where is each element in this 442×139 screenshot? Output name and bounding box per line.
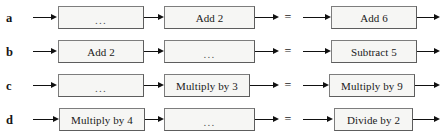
- arrow-out-a: [255, 16, 279, 19]
- row-label-b: b: [6, 35, 26, 69]
- arrow-out-d: [255, 118, 279, 121]
- row-b-result-box: Subtract 5: [331, 40, 417, 63]
- arrow-head: [51, 48, 57, 54]
- arrow-head: [273, 116, 279, 122]
- arrow-result-out-d: [413, 118, 440, 121]
- function-machine-diagram: a ... Add 2 = Add 6 b: [0, 0, 442, 139]
- arrow-result-in-c: [303, 84, 329, 87]
- arrow-shaft: [33, 51, 52, 52]
- arrow-in-c: [33, 84, 57, 87]
- arrow-out-b: [255, 50, 279, 53]
- arrow-head: [51, 14, 57, 20]
- arrow-shaft: [415, 85, 435, 86]
- diagram-row-d: d Multiply by 4 ... = Divide by 2: [0, 103, 442, 137]
- arrow-in-a: [33, 16, 57, 19]
- arrow-shaft: [144, 85, 159, 86]
- arrow-shaft: [303, 17, 326, 18]
- arrow-head: [273, 82, 279, 88]
- row-c-result-box: Multiply by 9: [329, 74, 415, 97]
- row-label-c: c: [6, 69, 26, 103]
- arrow-head: [273, 14, 279, 20]
- arrow-head: [434, 14, 440, 20]
- arrow-mid-b: [144, 50, 164, 53]
- arrow-result-out-b: [417, 50, 440, 53]
- arrow-result-in-a: [303, 16, 331, 19]
- row-d-middle-box: ...: [164, 108, 255, 131]
- row-b-middle-box: ...: [164, 40, 255, 63]
- arrow-head: [434, 82, 440, 88]
- row-c-left-box: ...: [58, 74, 144, 97]
- arrow-head: [273, 48, 279, 54]
- arrow-result-in-b: [303, 50, 331, 53]
- arrow-shaft: [255, 119, 274, 120]
- arrow-shaft: [250, 85, 274, 86]
- equals-sign-c: =: [281, 74, 295, 97]
- arrow-mid-d: [145, 118, 164, 121]
- arrow-shaft: [303, 119, 328, 120]
- diagram-row-c: c ... Multiply by 3 = Multiply by 9: [0, 69, 442, 103]
- arrow-result-out-c: [415, 84, 440, 87]
- arrow-shaft: [145, 119, 159, 120]
- arrow-shaft: [417, 51, 435, 52]
- row-a-middle-box: Add 2: [164, 6, 255, 29]
- arrow-shaft: [303, 51, 326, 52]
- arrow-shaft: [255, 51, 274, 52]
- arrow-head: [51, 82, 57, 88]
- arrow-head: [434, 116, 440, 122]
- row-d-result-box: Divide by 2: [334, 108, 413, 131]
- diagram-row-b: b Add 2 ... = Subtract 5: [0, 35, 442, 69]
- arrow-head: [327, 116, 333, 122]
- arrow-result-in-d: [303, 118, 333, 121]
- arrow-shaft: [413, 119, 435, 120]
- arrow-shaft: [255, 17, 274, 18]
- arrow-shaft: [417, 17, 435, 18]
- arrow-shaft: [33, 119, 54, 120]
- arrow-head: [434, 48, 440, 54]
- arrow-in-d: [33, 118, 59, 121]
- arrow-shaft: [33, 85, 52, 86]
- arrow-in-b: [33, 50, 57, 53]
- row-d-left-box: Multiply by 4: [59, 108, 145, 131]
- arrow-shaft: [144, 51, 159, 52]
- diagram-row-a: a ... Add 2 = Add 6: [0, 1, 442, 35]
- row-label-d: d: [6, 103, 26, 137]
- equals-sign-a: =: [281, 6, 295, 29]
- row-a-left-box: ...: [58, 6, 144, 29]
- arrow-result-out-a: [417, 16, 440, 19]
- arrow-mid-c: [144, 84, 164, 87]
- arrow-mid-a: [144, 16, 164, 19]
- equals-sign-b: =: [281, 40, 295, 63]
- arrow-shaft: [144, 17, 159, 18]
- row-b-left-box: Add 2: [58, 40, 144, 63]
- equals-sign-d: =: [281, 108, 295, 131]
- arrow-shaft: [303, 85, 324, 86]
- row-label-a: a: [6, 1, 26, 35]
- row-c-middle-box: Multiply by 3: [164, 74, 250, 97]
- row-a-result-box: Add 6: [331, 6, 417, 29]
- arrow-shaft: [33, 17, 52, 18]
- arrow-out-c: [250, 84, 279, 87]
